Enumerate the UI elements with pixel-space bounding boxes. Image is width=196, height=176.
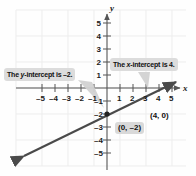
y-tick-label: 5 (97, 19, 102, 28)
callout-tail-x (138, 72, 150, 88)
coordinate-plane: y x –5 –4 –3 –2 –1 1 2 3 4 5 5 4 3 2 1 –… (0, 0, 196, 176)
x-tick-label: 4 (156, 94, 161, 103)
point-marker-y-intercept (104, 111, 109, 116)
x-tick-labels: –5 –4 –3 –2 –1 1 2 3 4 5 (36, 94, 174, 103)
y-tick-label: –1 (94, 97, 103, 106)
point-label-y-intercept: (0, –2) (115, 122, 144, 134)
callout-x-prefix: The (113, 61, 127, 68)
y-tick-label: –3 (94, 123, 103, 132)
callout-y-intercept: The y-intercept is –2. (4, 68, 75, 81)
y-tick-label: –4 (94, 136, 103, 145)
x-tick-label: 5 (169, 94, 174, 103)
y-tick-label: 1 (97, 71, 102, 80)
x-axis-label: x (182, 83, 188, 93)
y-tick-label: 4 (97, 32, 102, 41)
y-tick-label: 2 (97, 58, 102, 67)
y-tick-label: 3 (97, 45, 102, 54)
x-tick-label: 2 (130, 94, 135, 103)
callout-x-suffix: -intercept is 4. (130, 61, 174, 68)
callout-x-intercept: The x-intercept is 4. (110, 58, 178, 71)
y-axis-label: y (109, 3, 115, 13)
y-tick-label: –5 (94, 149, 103, 158)
x-tick-label: –5 (36, 94, 45, 103)
y-tick-label: –2 (94, 110, 103, 119)
x-tick-label: 3 (143, 94, 148, 103)
x-tick-label: –3 (62, 94, 71, 103)
x-tick-label: –2 (75, 94, 84, 103)
x-tick-label: –4 (49, 94, 58, 103)
point-label-x-intercept: (4, 0) (150, 112, 169, 120)
x-tick-label: 1 (117, 94, 122, 103)
graph-figure: y x –5 –4 –3 –2 –1 1 2 3 4 5 5 4 3 2 1 –… (0, 0, 196, 176)
callout-y-suffix: -intercept is –2. (24, 71, 72, 78)
callout-y-prefix: The (7, 71, 21, 78)
